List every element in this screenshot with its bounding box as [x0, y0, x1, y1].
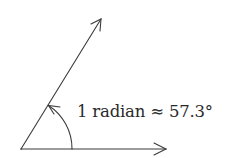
radian-angle-diagram [0, 0, 231, 158]
inclined-ray [21, 19, 101, 149]
horizontal-ray [21, 143, 166, 155]
angle-arc [49, 106, 73, 150]
angle-label: 1 radian ≈ 57.3° [77, 102, 213, 121]
vertex-point [20, 148, 21, 149]
